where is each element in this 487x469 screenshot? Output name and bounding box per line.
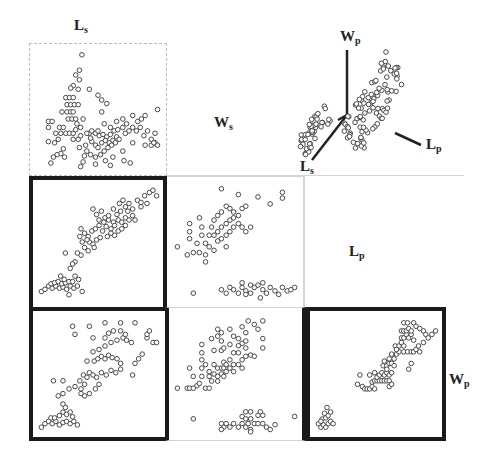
data-point — [240, 421, 245, 426]
data-point — [104, 373, 109, 378]
data-point — [309, 145, 314, 150]
data-point — [104, 101, 109, 106]
data-point — [215, 334, 220, 339]
data-point — [187, 366, 192, 371]
data-point — [240, 358, 245, 363]
scatter-ws-wp — [172, 312, 300, 436]
data-point — [386, 64, 391, 69]
data-point — [97, 382, 102, 387]
data-point — [114, 370, 119, 375]
data-point — [134, 129, 139, 134]
data-point — [212, 233, 217, 238]
data-point — [100, 229, 105, 234]
data-point — [252, 322, 257, 327]
data-point — [92, 245, 97, 250]
data-point — [236, 425, 241, 430]
data-point — [121, 198, 126, 203]
data-point — [256, 195, 261, 200]
data-point — [112, 223, 117, 228]
data-point — [103, 321, 108, 326]
data-point — [236, 362, 241, 367]
data-point — [200, 366, 205, 371]
data-point — [51, 155, 56, 160]
data-point — [417, 350, 422, 355]
data-point — [197, 250, 202, 255]
data-point — [109, 340, 114, 345]
data-point — [129, 340, 134, 345]
data-point — [228, 366, 233, 371]
data-point — [82, 382, 87, 387]
data-point — [73, 384, 78, 389]
data-point — [394, 71, 399, 76]
data-point — [51, 379, 56, 384]
data-point — [104, 224, 109, 229]
data-point — [56, 394, 61, 399]
data-point — [121, 149, 126, 154]
data-point — [361, 125, 366, 130]
data-point — [236, 291, 241, 296]
data-point — [80, 289, 85, 294]
data-point — [389, 89, 394, 94]
data-point — [75, 423, 80, 428]
data-point — [187, 236, 192, 241]
data-point — [197, 381, 202, 386]
data-point — [77, 78, 82, 83]
data-point — [195, 241, 200, 246]
data-point — [319, 125, 324, 130]
data-point — [236, 221, 241, 226]
data-point — [382, 359, 387, 364]
data-point — [118, 361, 123, 366]
data-point — [85, 131, 90, 136]
data-point — [228, 229, 233, 234]
data-point — [46, 125, 51, 130]
data-point — [209, 336, 214, 341]
data-point — [256, 283, 261, 288]
data-point — [228, 206, 233, 211]
scatter-lp-wp — [313, 314, 441, 436]
data-point — [236, 343, 241, 348]
data-point — [124, 338, 129, 343]
data-point — [93, 162, 98, 167]
data-point — [236, 351, 241, 356]
data-point — [78, 379, 83, 384]
data-point — [358, 114, 363, 119]
data-point — [122, 158, 127, 163]
data-point — [363, 111, 368, 116]
data-point — [219, 330, 224, 335]
data-point — [331, 421, 336, 426]
data-point — [212, 362, 217, 367]
data-point — [191, 417, 196, 422]
data-point — [142, 194, 147, 199]
data-point — [118, 321, 123, 326]
data-point — [244, 292, 249, 297]
data-point — [236, 192, 241, 197]
data-point — [399, 82, 404, 87]
data-point — [357, 97, 362, 102]
data-point — [231, 216, 236, 221]
data-point — [224, 369, 229, 374]
data-point — [117, 137, 122, 142]
data-point — [209, 225, 214, 230]
data-point — [325, 405, 330, 410]
data-point — [82, 154, 87, 159]
data-point — [231, 334, 236, 339]
data-point — [353, 146, 358, 151]
data-point — [111, 329, 116, 334]
data-point — [319, 419, 324, 424]
label-lp: Lp — [349, 243, 365, 261]
data-point — [73, 332, 78, 337]
data-point — [374, 90, 379, 95]
label-ws: Ws — [214, 114, 233, 132]
data-point — [268, 202, 273, 207]
data-point — [200, 233, 205, 238]
data-point — [244, 229, 249, 234]
data-point — [261, 413, 266, 418]
data-point — [73, 127, 78, 132]
data-point — [79, 227, 84, 232]
data-point — [154, 340, 159, 345]
data-point — [138, 125, 143, 130]
data-point — [366, 102, 371, 107]
data-point — [87, 324, 92, 329]
data-point — [369, 92, 374, 97]
data-point — [123, 332, 128, 337]
